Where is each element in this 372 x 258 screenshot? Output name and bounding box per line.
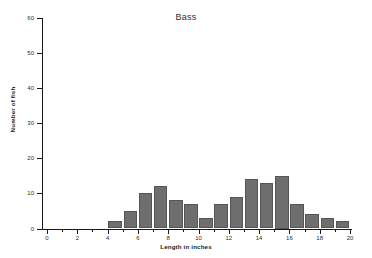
histogram-bar bbox=[336, 221, 350, 228]
histogram-bar bbox=[199, 218, 213, 229]
histogram-bar bbox=[214, 204, 228, 229]
histogram-bar bbox=[321, 218, 335, 229]
histogram-bar bbox=[305, 214, 319, 228]
histogram-bar bbox=[184, 204, 198, 229]
histogram-bar bbox=[139, 193, 153, 228]
histogram-bar bbox=[275, 176, 289, 229]
bars-layer bbox=[0, 0, 372, 258]
histogram-bar bbox=[230, 197, 244, 229]
histogram-bar bbox=[154, 186, 168, 228]
histogram-bar bbox=[108, 221, 122, 228]
histogram-chart: Bass Number of fish Length in inches 010… bbox=[0, 0, 372, 258]
histogram-bar bbox=[169, 200, 183, 228]
histogram-bar bbox=[290, 204, 304, 229]
histogram-bar bbox=[260, 183, 274, 229]
histogram-bar bbox=[245, 179, 259, 228]
histogram-bar bbox=[124, 211, 138, 229]
